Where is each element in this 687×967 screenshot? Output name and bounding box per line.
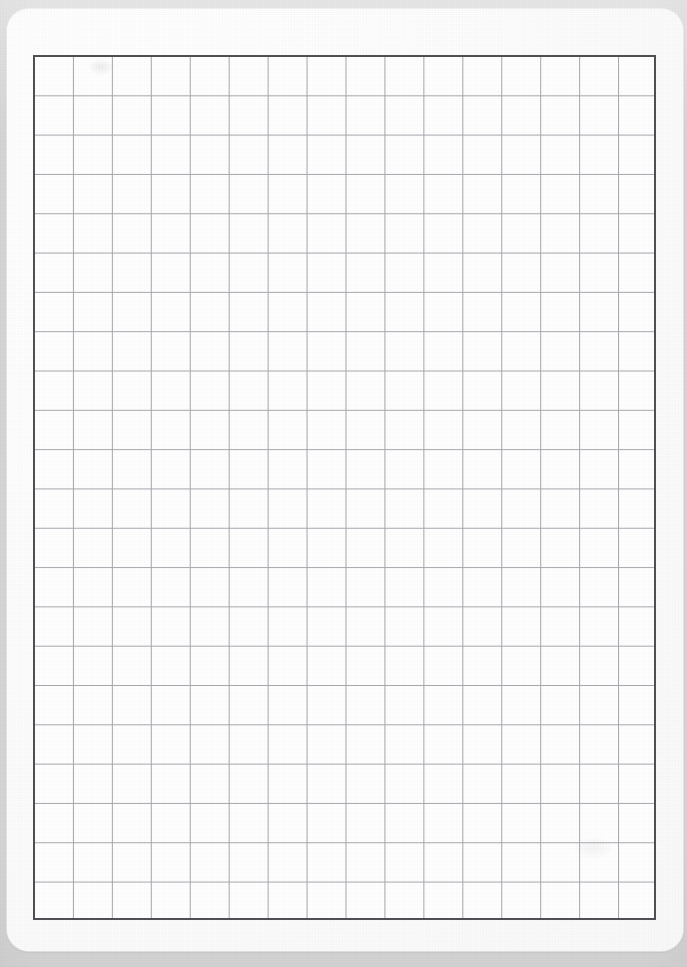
paper-sheet	[7, 9, 683, 951]
grid-lines	[33, 55, 656, 920]
grid-area	[33, 55, 656, 920]
screenshot-canvas: Blank Grid Paper	[0, 0, 687, 967]
